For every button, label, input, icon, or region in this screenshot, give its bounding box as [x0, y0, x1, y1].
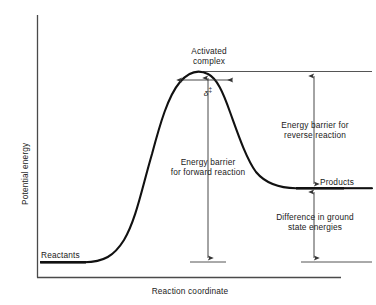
- activated-complex-label-line2: complex: [163, 56, 255, 67]
- potential-energy-diagram: Potential energy Reaction coordinate Act…: [0, 0, 376, 305]
- products-label: Products: [320, 177, 372, 188]
- x-axis-title: Reaction coordinate: [130, 286, 250, 297]
- transition-state-width-label: δ‡: [196, 85, 220, 99]
- activated-complex-label-line1: Activated: [163, 46, 255, 57]
- energy-barrier-forward-label-line2: for forward reaction: [147, 167, 269, 178]
- ground-state-difference-label-line2: state energies: [258, 222, 372, 233]
- energy-barrier-reverse-label-line1: Energy barrier for: [259, 120, 371, 131]
- reactants-label: Reactants: [41, 250, 105, 261]
- y-axis-title: Potential energy: [20, 143, 31, 205]
- double-dagger-symbol: ‡: [208, 86, 212, 93]
- energy-barrier-reverse-label-line2: reverse reaction: [259, 130, 371, 141]
- energy-barrier-forward-label-line1: Energy barrier: [147, 157, 269, 168]
- ground-state-difference-label-line1: Difference in ground: [258, 212, 372, 223]
